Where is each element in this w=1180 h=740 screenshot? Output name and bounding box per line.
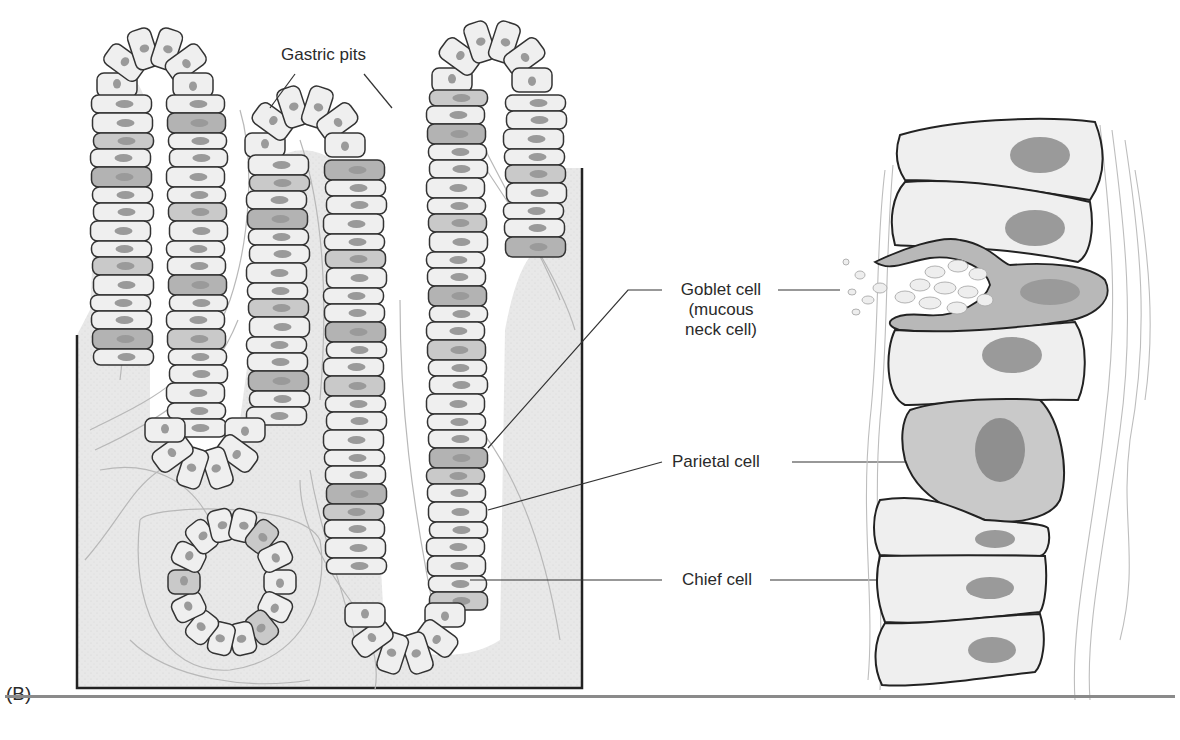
goblet-cell-label-line2: (mucous [666,300,776,320]
bottom-rule [5,695,1175,698]
parietal-cell-label: Parietal cell [672,452,760,472]
goblet-cell-label-line1: Goblet cell [666,280,776,300]
gastric-gland-figure: Gastric pits Goblet cell (mucous neck ce… [0,0,1180,740]
enlarged-cells [843,119,1150,700]
goblet-cell-label: Goblet cell (mucous neck cell) [666,280,776,340]
goblet-cell-label-line3: neck cell) [666,320,776,340]
gastric-pits-label: Gastric pits [281,45,366,65]
panel-letter: (B) [6,683,31,705]
chief-cell-label: Chief cell [682,570,752,590]
gastric-gland-illustration [0,0,1180,740]
